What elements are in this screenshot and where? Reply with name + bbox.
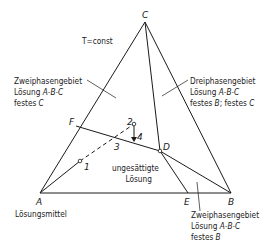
region-unsaturated: ungesättigte Lösung bbox=[112, 163, 159, 185]
line-a-1 bbox=[40, 161, 80, 193]
point-1 bbox=[78, 159, 82, 163]
region-two-phase-c: Zweiphasengebiet Lösung A-B-C festes C bbox=[14, 76, 82, 109]
vertex-c-label: C bbox=[142, 10, 148, 20]
leader-two-phase-b bbox=[197, 182, 200, 211]
point-f-label: F bbox=[69, 117, 74, 127]
point-1-label: 1 bbox=[84, 162, 90, 172]
point-d bbox=[158, 149, 162, 153]
condition-label: T=const bbox=[82, 36, 113, 47]
point-4-label: 4 bbox=[137, 132, 143, 142]
point-d-label: D bbox=[163, 142, 170, 152]
point-e-label: E bbox=[184, 197, 190, 207]
line-c-d bbox=[145, 22, 160, 151]
region-two-phase-b: Zweiphasengebiet Lösung A-B-C festes B bbox=[191, 210, 259, 243]
point-2-label: 2 bbox=[127, 117, 133, 127]
curve-d-e bbox=[160, 151, 188, 193]
vertex-a-label: A bbox=[36, 197, 42, 207]
leader-two-phase-c bbox=[87, 80, 116, 98]
point-3-label: 3 bbox=[114, 142, 120, 152]
ternary-diagram: C A B Lösungsmittel F D E 1 2 3 4 T=cons… bbox=[0, 0, 278, 250]
vertex-b-label: B bbox=[228, 197, 234, 207]
region-three-phase: Dreiphasengebiet Lösung A-B-C festes B; … bbox=[190, 76, 255, 109]
solvent-caption: Lösungsmittel bbox=[15, 209, 67, 220]
